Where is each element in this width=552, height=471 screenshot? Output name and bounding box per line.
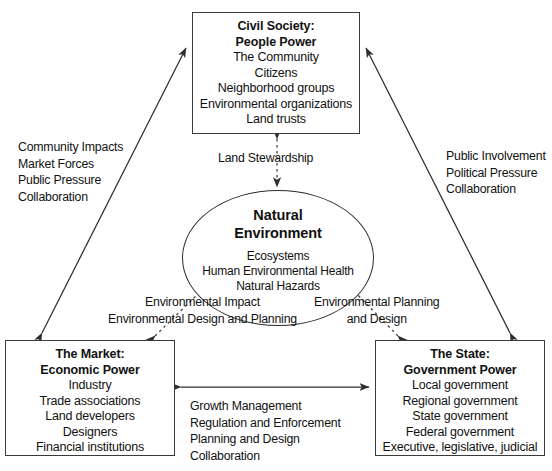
edge-label-line: and Design: [314, 311, 439, 328]
node-market[interactable]: The Market: Economic Power Industry Trad…: [5, 340, 175, 456]
node-state-item: Regional government: [380, 394, 540, 410]
edge-label-land-stewardship: Land Stewardship: [218, 150, 313, 167]
node-market-item: Trade associations: [10, 394, 170, 410]
node-market-title-line1: The Market:: [10, 347, 170, 363]
node-market-item: Financial institutions: [10, 440, 170, 456]
edge-label-line: Political Pressure: [446, 165, 546, 182]
edge-label-line: Collaboration: [446, 181, 546, 198]
edge-label-line: Public Pressure: [18, 172, 123, 189]
edge-label-line: Collaboration: [190, 448, 341, 465]
node-market-item: Industry: [10, 378, 170, 394]
edge-label-state-environment: Environmental Planning and Design: [314, 294, 439, 327]
node-market-title-line2: Economic Power: [10, 363, 170, 379]
node-natural-environment-item: Ecosystems: [183, 249, 373, 264]
node-natural-environment-title-line2: Environment: [183, 224, 373, 242]
node-state-title-line2: Government Power: [380, 363, 540, 379]
edge-label-line: Growth Management: [190, 398, 341, 415]
node-civil-society[interactable]: Civil Society: People Power The Communit…: [192, 12, 360, 134]
node-state-item: State government: [380, 409, 540, 425]
node-civil-society-item: Neighborhood groups: [197, 81, 355, 97]
node-market-item: Designers: [10, 425, 170, 441]
node-civil-society-item: Citizens: [197, 66, 355, 82]
edge-label-line: Environmental Design and Planning: [108, 311, 297, 328]
edge-label-market-environment: Environmental Impact Environmental Desig…: [108, 294, 297, 327]
diagram-canvas: Civil Society (solid diagonal, left side…: [0, 0, 552, 471]
edge-label-line: Environmental Impact: [108, 294, 297, 311]
node-state-item: Executive, legislative, judicial: [380, 440, 540, 456]
node-state-item: Local government: [380, 378, 540, 394]
edge-label-line: Public Involvement: [446, 148, 546, 165]
edge-label-market-civilsociety: Community Impacts Market Forces Public P…: [18, 139, 123, 205]
edge-label-market-state: Growth Management Regulation and Enforce…: [190, 398, 341, 464]
edge-label-line: Community Impacts: [18, 139, 123, 156]
node-civil-society-item: Land trusts: [197, 112, 355, 128]
node-civil-society-item: Environmental organizations: [197, 97, 355, 113]
edge-label-line: Collaboration: [18, 189, 123, 206]
edge-label-state-civilsociety: Public Involvement Political Pressure Co…: [446, 148, 546, 198]
node-natural-environment-title-line1: Natural: [183, 206, 373, 224]
node-market-item: Land developers: [10, 409, 170, 425]
edge-label-line: Market Forces: [18, 156, 123, 173]
node-state[interactable]: The State: Government Power Local govern…: [375, 340, 545, 456]
node-natural-environment-item: Human Environmental Health: [183, 264, 373, 279]
node-natural-environment-item: Natural Hazards: [183, 279, 373, 294]
node-state-title-line1: The State:: [380, 347, 540, 363]
node-state-item: Federal government: [380, 425, 540, 441]
edge-label-line: Environmental Planning: [314, 294, 439, 311]
node-civil-society-title-line1: Civil Society:: [197, 19, 355, 35]
edge-label-line: Regulation and Enforcement: [190, 415, 341, 432]
edge-label-line: Land Stewardship: [218, 150, 313, 167]
node-civil-society-title-line2: People Power: [197, 35, 355, 51]
edge-label-line: Planning and Design: [190, 431, 341, 448]
node-civil-society-item: The Community: [197, 50, 355, 66]
